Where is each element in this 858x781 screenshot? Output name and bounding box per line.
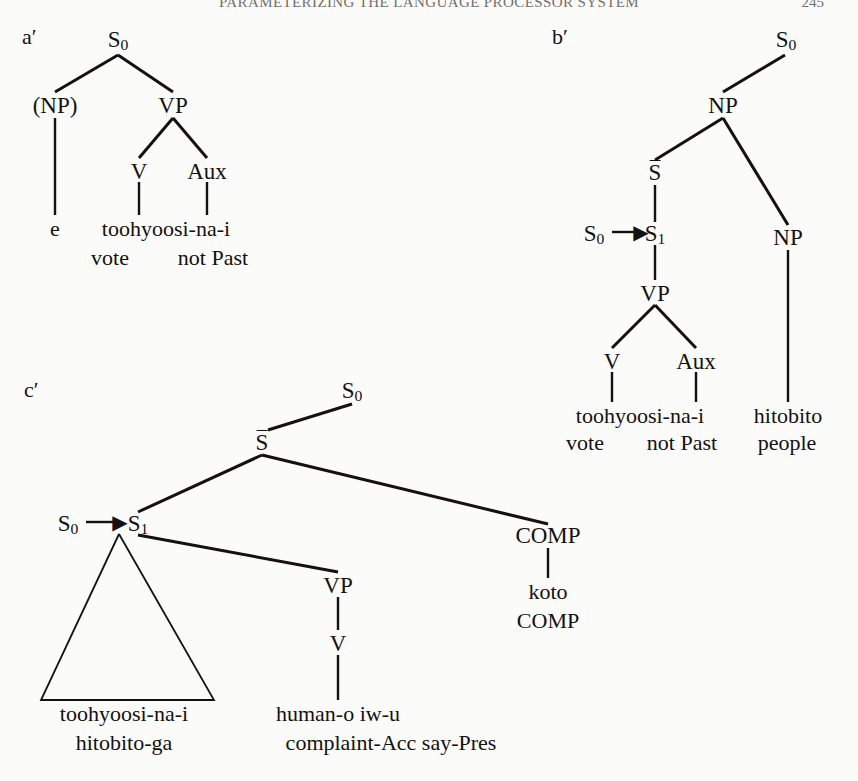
edge-a-s0-np <box>55 55 118 92</box>
running-head: PARAMETERIZING THE LANGUAGE PROCESSOR SY… <box>0 0 858 11</box>
tree-c-node-comp: COMP <box>515 524 580 547</box>
tree-b-arrowhead: ▶ <box>633 222 648 242</box>
tree-c-node-sbar: S <box>256 431 269 454</box>
tree-b-node-np-right: NP <box>773 226 802 249</box>
edge-b-vp-aux <box>655 305 696 348</box>
tree-a-node-s0: S0 <box>108 28 129 53</box>
tree-c-terminal-tri-line2: hitobito-ga <box>76 732 173 754</box>
edge-c-sbar-comp <box>262 455 548 524</box>
tree-c-arrowhead: ▶ <box>112 512 127 532</box>
tree-c-gloss-vp-line2: complaint-Acc say-Pres <box>286 732 497 754</box>
tree-a-terminal-e: e <box>50 218 60 240</box>
tree-a-node-np: (NP) <box>33 94 78 117</box>
tree-c-gloss-comp: COMP <box>517 610 579 632</box>
edge-c-sbar-s1 <box>138 455 262 512</box>
tree-a-node-aux: Aux <box>187 160 227 183</box>
tree-a-node-vp: VP <box>158 94 187 117</box>
tree-b-terminal-noun: hitobito <box>754 405 822 427</box>
tree-b-terminal-verb: toohyoosi-na-i <box>576 405 704 427</box>
tree-a-gloss-vote: vote <box>91 247 129 269</box>
tree-c-terminal-vp-line1: human-o iw-u <box>276 703 400 725</box>
edge-a-vp-aux <box>173 118 207 158</box>
tree-b-node-v: V <box>604 350 621 373</box>
tree-b-node-np-top: NP <box>708 94 737 117</box>
tree-b-node-s0-source: S0 <box>584 222 605 247</box>
tree-b-gloss-vote: vote <box>566 432 604 454</box>
edge-c-s1-vp <box>138 535 338 572</box>
triangle-c-s1 <box>41 534 214 700</box>
tree-c-node-s0-top: S0 <box>342 379 363 404</box>
tree-c-terminal-koto: koto <box>528 581 567 603</box>
tree-c-node-v: V <box>330 632 347 655</box>
edge-a-s0-vp <box>118 55 173 92</box>
tree-b-node-sbar: S <box>649 161 662 184</box>
tree-b-node-vp: VP <box>640 282 669 305</box>
tree-a-node-v: V <box>131 160 148 183</box>
tree-c-terminal-tri-line1: toohyoosi-na-i <box>60 703 188 725</box>
edge-c-s0-sbar <box>268 404 352 430</box>
tree-b-gloss-people: people <box>758 432 817 454</box>
tree-b-label: b′ <box>552 24 568 50</box>
tree-c-node-vp: VP <box>323 574 352 597</box>
edge-b-vp-v <box>612 305 655 348</box>
page-folio: 245 <box>802 0 825 11</box>
tree-a-label: a′ <box>22 24 37 50</box>
edge-b-s0-np <box>723 55 785 92</box>
tree-b-node-aux: Aux <box>676 350 716 373</box>
edge-b-np-sbar <box>655 118 723 160</box>
tree-c-label: c′ <box>24 377 39 403</box>
tree-c-node-s1: S1 <box>128 512 149 537</box>
edge-b-np-npright <box>723 118 788 225</box>
tree-c-node-s0-source: S0 <box>58 512 79 537</box>
tree-b-gloss-notpast: not Past <box>647 432 717 454</box>
page-canvas: PARAMETERIZING THE LANGUAGE PROCESSOR SY… <box>0 0 858 781</box>
tree-a-gloss-notpast: not Past <box>178 247 248 269</box>
edge-a-vp-v <box>139 118 173 158</box>
tree-a-terminal-verb: toohyoosi-na-i <box>102 218 230 240</box>
tree-b-node-s0-top: S0 <box>776 28 797 53</box>
